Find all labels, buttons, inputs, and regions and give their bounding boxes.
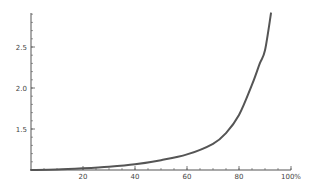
y-tick-label: 2.0: [16, 85, 27, 93]
series-line-curve: [31, 13, 271, 170]
data-series: [31, 13, 271, 170]
y-tick-label: 2.5: [16, 44, 27, 52]
chart: 1.52.02.5 20406080100%: [0, 0, 312, 192]
x-tick-label: 40: [131, 173, 140, 181]
x-tick-label: 20: [79, 173, 88, 181]
y-axis: 1.52.02.5: [16, 13, 35, 170]
x-tick-label: 60: [183, 173, 192, 181]
x-tick-label: 100%: [281, 173, 301, 181]
x-tick-label: 80: [235, 173, 244, 181]
y-tick-label: 1.5: [16, 126, 27, 134]
